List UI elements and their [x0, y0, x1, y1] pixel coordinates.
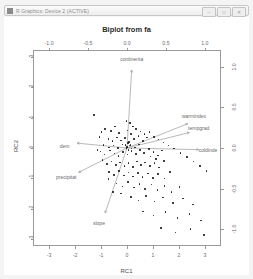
data-point: [169, 171, 171, 173]
right-axis-tick-label: 0.0: [231, 140, 237, 156]
data-point: [157, 173, 159, 175]
x-axis-tick: [153, 246, 154, 249]
window-controls: – □ ✕: [202, 7, 246, 17]
data-point: [139, 183, 141, 185]
data-point: [104, 128, 106, 130]
x-axis-tick: [75, 246, 76, 249]
data-point: [148, 148, 150, 150]
data-point: [165, 211, 167, 213]
data-point: [186, 156, 188, 158]
x-axis-tick-label: 2: [174, 252, 184, 258]
y-axis-tick-label: 1: [28, 111, 34, 123]
data-point: [142, 140, 144, 142]
loading-vector: [127, 70, 132, 148]
data-point: [112, 191, 114, 193]
data-point: [145, 195, 147, 197]
loading-vector: [127, 124, 188, 148]
data-point: [135, 128, 137, 130]
data-point: [152, 177, 154, 179]
data-point: [109, 150, 111, 152]
loading-label: tempgrad: [185, 125, 213, 131]
data-point: [130, 133, 132, 135]
data-point: [164, 185, 166, 187]
close-button[interactable]: ✕: [232, 7, 246, 17]
top-axis-tick-label: -0.5: [80, 40, 96, 46]
data-point: [138, 144, 140, 146]
data-point: [132, 166, 134, 168]
x-axis-tick-label: 1: [148, 252, 158, 258]
loading-label: dem: [51, 143, 79, 149]
loading-label: coldinde: [194, 147, 222, 153]
right-axis-tick: [221, 189, 224, 190]
minimize-button[interactable]: –: [202, 7, 216, 17]
y-axis-label: RC2: [13, 136, 19, 156]
top-axis-tick: [205, 48, 206, 51]
data-point: [123, 175, 125, 177]
data-point: [106, 163, 108, 165]
minimize-icon: –: [208, 10, 211, 15]
top-axis-tick-label: 1.0: [197, 40, 213, 46]
top-axis-tick: [49, 48, 50, 51]
x-axis-tick: [49, 246, 50, 249]
right-axis-tick-label: -0.5: [231, 181, 237, 197]
x-axis-label: RC1: [4, 268, 249, 274]
data-point: [113, 174, 115, 176]
data-point: [127, 142, 129, 144]
x-axis-tick-label: 0: [122, 252, 132, 258]
data-point: [108, 171, 110, 173]
data-point: [190, 228, 192, 230]
data-point: [149, 131, 151, 133]
top-axis-tick: [127, 48, 128, 51]
data-point: [160, 227, 162, 229]
data-point: [149, 165, 151, 167]
app-icon: [7, 8, 13, 14]
top-axis-tick: [166, 48, 167, 51]
right-axis-tick: [221, 67, 224, 68]
loading-label: slope: [85, 220, 113, 226]
data-point: [155, 158, 157, 160]
data-point: [139, 149, 141, 151]
top-axis-tick-label: 0.5: [158, 40, 174, 46]
data-point: [124, 137, 126, 139]
x-axis-tick-label: 3: [200, 252, 210, 258]
data-point: [142, 211, 144, 213]
top-axis-tick: [88, 48, 89, 51]
right-axis-tick: [221, 229, 224, 230]
plot-canvas: Biplot from fa -3-2-10123RC13210-1-2-3RC…: [4, 17, 249, 275]
maximize-icon: □: [222, 10, 225, 15]
data-point: [118, 170, 120, 172]
y-axis-tick-label: 0: [28, 141, 34, 153]
data-point: [189, 213, 191, 215]
data-point: [122, 151, 124, 153]
close-icon: ✕: [237, 10, 241, 15]
loading-label: precipitat: [52, 174, 80, 180]
data-point: [108, 147, 110, 149]
y-axis-tick-label: 2: [28, 80, 34, 92]
loading-vector: [127, 148, 199, 150]
data-point: [138, 135, 140, 137]
maximize-button[interactable]: □: [217, 7, 231, 17]
x-axis-tick: [179, 246, 180, 249]
data-point: [108, 138, 110, 140]
x-axis-tick-label: -3: [44, 252, 54, 258]
data-point: [144, 188, 146, 190]
data-point: [134, 147, 136, 149]
data-point: [143, 152, 145, 154]
x-axis-tick-label: -2: [70, 252, 80, 258]
x-axis-tick: [205, 246, 206, 249]
top-axis-tick-label: -1.0: [41, 40, 57, 46]
y-axis-tick-label: -1: [28, 171, 34, 183]
data-point: [161, 150, 163, 152]
window-title: R Graphics: Device 2 (ACTIVE): [16, 7, 89, 16]
loading-vector: [105, 148, 127, 213]
data-point: [177, 217, 179, 219]
window-titlebar[interactable]: R Graphics: Device 2 (ACTIVE) – □ ✕: [4, 5, 249, 16]
data-point: [97, 149, 99, 151]
y-axis-tick-label: -2: [28, 202, 34, 214]
top-axis-tick-label: 0.0: [119, 40, 135, 46]
data-point: [108, 178, 110, 180]
data-point: [162, 197, 164, 199]
x-axis-tick-label: -1: [96, 252, 106, 258]
data-point: [135, 153, 137, 155]
data-point: [203, 234, 205, 236]
